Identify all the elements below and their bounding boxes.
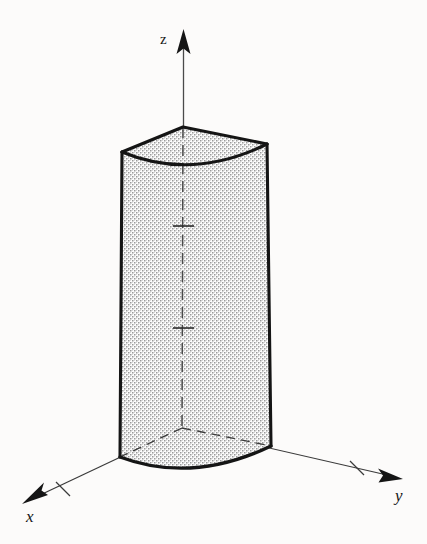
y-axis-arrow <box>378 469 403 483</box>
z-axis-label: z <box>160 32 167 47</box>
z-axis-hidden-shaft <box>182 127 183 428</box>
quarter-cylinder-solid <box>120 127 271 468</box>
left-silhouette-edge <box>120 152 122 457</box>
figure-canvas: z x y <box>0 0 427 544</box>
quarter-cylinder-diagram <box>0 0 427 544</box>
y-axis-tick <box>350 461 364 475</box>
cylinder-yz-plane-face <box>182 127 271 446</box>
x-axis-arrow <box>22 483 48 505</box>
x-axis-label: x <box>26 508 34 525</box>
cylinder-xz-plane-face <box>120 127 183 457</box>
y-axis-label: y <box>395 487 403 504</box>
